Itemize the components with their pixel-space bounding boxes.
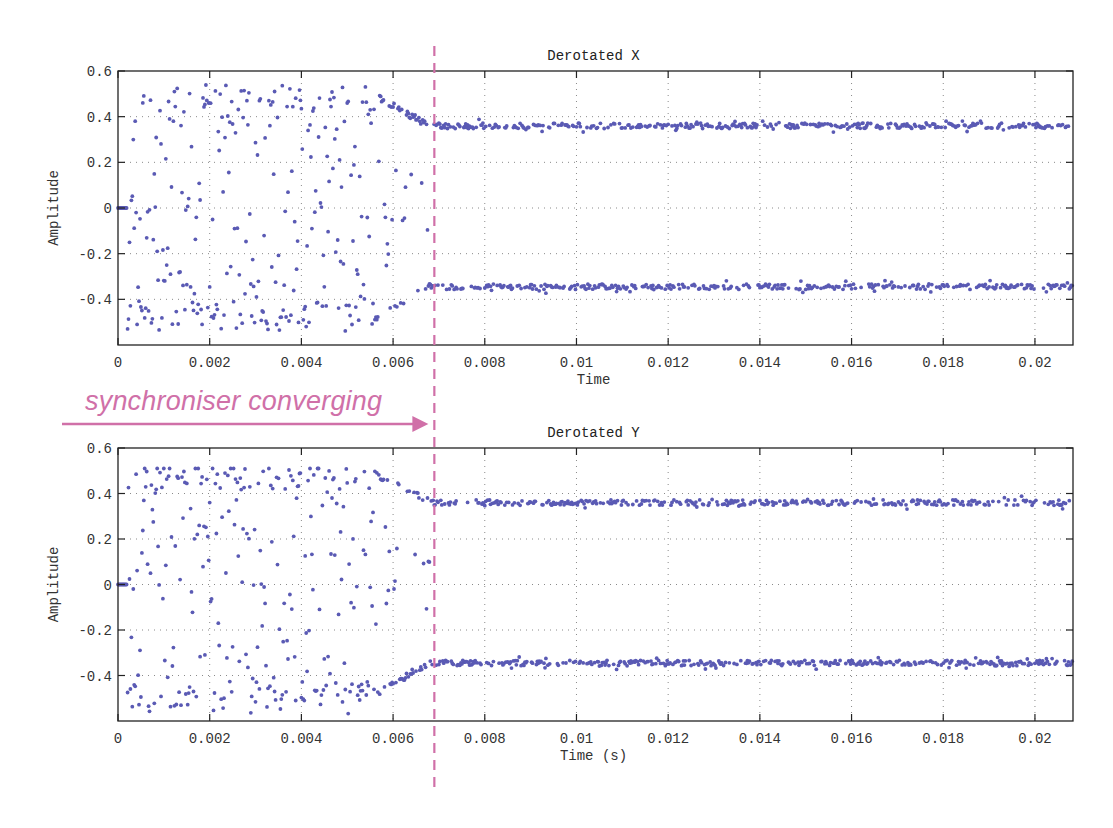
- annotation-label: synchroniser converging: [85, 386, 382, 417]
- x-tick-label: 0.02: [1018, 731, 1052, 747]
- x-axis-label: Time: [577, 372, 611, 388]
- y-tick-label: 0: [104, 201, 112, 217]
- x-tick-label: 0.014: [739, 355, 781, 371]
- y-tick-label: 0.4: [87, 487, 112, 503]
- x-tick-label: 0.008: [464, 355, 506, 371]
- y-tick-label: 0.2: [87, 155, 112, 171]
- axes-frame: [118, 71, 1073, 345]
- x-tick-label: 0.004: [280, 731, 322, 747]
- y-tick-label: -0.2: [78, 247, 112, 263]
- x-tick-label: 0.006: [372, 731, 414, 747]
- y-tick-label: -0.4: [78, 292, 112, 308]
- x-tick-label: 0.01: [560, 355, 594, 371]
- x-tick-label: 0.012: [647, 731, 689, 747]
- y-axis-label: Amplitude: [46, 547, 62, 623]
- y-tick-label: -0.4: [78, 669, 112, 685]
- x-tick-label: 0.006: [372, 355, 414, 371]
- x-tick-label: 0.016: [831, 731, 873, 747]
- y-tick-label: 0.6: [87, 441, 112, 457]
- plot-derotated-y: 00.0020.0040.0060.0080.010.0120.0140.016…: [46, 425, 1074, 764]
- scatter-points: [116, 467, 1074, 716]
- y-tick-label: 0.6: [87, 64, 112, 80]
- y-tick-label: 0.4: [87, 110, 112, 126]
- plot-derotated-x: 00.0020.0040.0060.0080.010.0120.0140.016…: [46, 48, 1074, 388]
- x-tick-label: 0.01: [560, 731, 594, 747]
- x-tick-label: 0.018: [922, 731, 964, 747]
- x-tick-label: 0.002: [189, 731, 231, 747]
- x-tick-label: 0.012: [647, 355, 689, 371]
- y-tick-label: -0.2: [78, 623, 112, 639]
- x-tick-label: 0.008: [464, 731, 506, 747]
- x-tick-label: 0: [114, 355, 122, 371]
- plot-title: Derotated X: [547, 48, 640, 64]
- x-axis-label: Time (s): [560, 748, 627, 764]
- x-tick-label: 0: [114, 731, 122, 747]
- x-tick-label: 0.018: [922, 355, 964, 371]
- x-tick-label: 0.016: [831, 355, 873, 371]
- y-tick-label: 0.2: [87, 532, 112, 548]
- scatter-points: [116, 83, 1074, 333]
- y-tick-label: 0: [104, 578, 112, 594]
- arrow-head-icon: [412, 416, 428, 432]
- x-tick-label: 0.002: [189, 355, 231, 371]
- plot-title: Derotated Y: [547, 425, 640, 441]
- x-tick-label: 0.02: [1018, 355, 1052, 371]
- y-axis-label: Amplitude: [46, 170, 62, 246]
- x-tick-label: 0.014: [739, 731, 781, 747]
- x-tick-label: 0.004: [280, 355, 322, 371]
